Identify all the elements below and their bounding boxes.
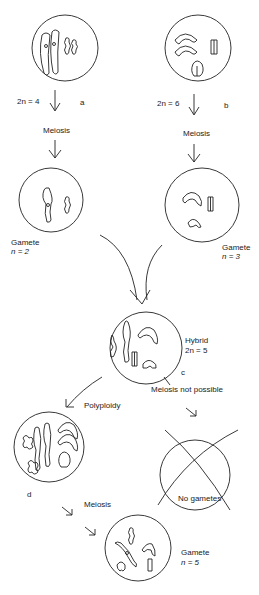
meiosis-a: Meiosis (43, 126, 70, 135)
arrow-to-failure (164, 377, 196, 416)
tag-b: b (224, 101, 228, 110)
tag-c: c (181, 368, 185, 377)
tag-a: a (80, 98, 84, 107)
gamete-b-ploidy: n = 3 (222, 252, 240, 261)
meiosis-not-possible: Meiosis not possible (151, 385, 223, 394)
final-gamete-ploidy: n = 5 (181, 558, 199, 567)
diagram-canvas (0, 0, 259, 595)
cell-parent-a (32, 15, 98, 81)
arrow-converge (100, 235, 162, 304)
arrow-down-b2 (188, 144, 200, 162)
gamete-a-title: Gamete (11, 238, 39, 247)
arrow-down-a2 (49, 140, 61, 158)
gamete-b-title: Gamete (222, 243, 250, 252)
hybrid-ploidy: 2n = 5 (185, 346, 207, 355)
tag-d: d (27, 490, 31, 499)
final-gamete-title: Gamete (181, 548, 209, 557)
cell-polyploid (14, 412, 84, 482)
no-gametes-label: No gametes (178, 494, 221, 503)
hybrid-title: Hybrid (185, 336, 208, 345)
arrow-to-meiosis (62, 507, 95, 535)
arrow-down-b (189, 94, 199, 115)
arrow-down-a (50, 90, 60, 111)
meiosis-b: Meiosis (183, 129, 210, 138)
meiosis-final: Meiosis (84, 500, 111, 509)
cell-parent-b (165, 15, 231, 81)
cell-gamete-b (165, 168, 239, 242)
polyploidy-label: Polyploidy (84, 401, 120, 410)
cell-gamete-a (19, 168, 83, 232)
cell-hybrid (110, 312, 182, 384)
gamete-a-ploidy: n = 2 (11, 247, 29, 256)
cell-final-gamete (105, 515, 171, 581)
ploidy-b: 2n = 6 (157, 99, 179, 108)
ploidy-a: 2n = 4 (17, 97, 39, 106)
